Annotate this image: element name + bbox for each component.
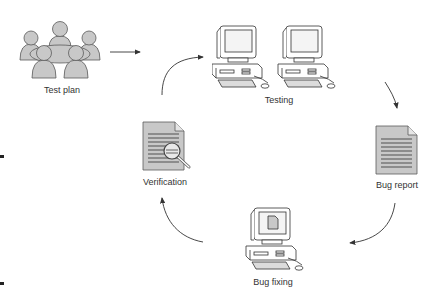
desktop-computer-with-document-icon bbox=[244, 206, 314, 272]
document-magnifier-icon bbox=[142, 121, 192, 171]
node-label-test-plan: Test plan bbox=[44, 85, 80, 95]
node-bug-fixing bbox=[244, 206, 314, 272]
node-testing bbox=[212, 24, 342, 90]
node-bug-report bbox=[375, 125, 419, 175]
node-label-bug-fixing: Bug fixing bbox=[253, 277, 293, 287]
node-label-verification: Verification bbox=[143, 177, 187, 187]
arrow-bugfixing-to-verification bbox=[162, 198, 203, 242]
arrow-testing-to-bugreport bbox=[385, 82, 397, 108]
two-desktop-computers-icon bbox=[212, 24, 342, 90]
node-test-plan bbox=[14, 14, 104, 80]
node-verification bbox=[142, 121, 192, 171]
people-meeting-icon bbox=[14, 14, 104, 80]
document-icon bbox=[375, 125, 419, 175]
node-label-testing: Testing bbox=[265, 95, 294, 105]
arrow-bugreport-to-bugfixing bbox=[350, 203, 395, 243]
arrow-verification-to-testing bbox=[162, 57, 203, 95]
node-label-bug-report: Bug report bbox=[376, 180, 418, 190]
